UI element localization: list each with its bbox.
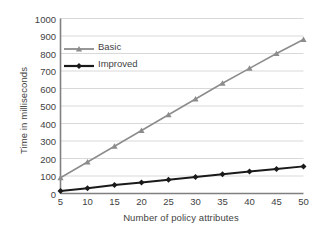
data-point [138,127,144,133]
data-point [165,112,171,118]
legend-label: Basic [98,41,121,52]
data-point [274,166,280,172]
data-point [112,182,118,188]
data-point [111,143,117,149]
data-point [139,179,145,185]
legend-swatch-triangle-icon [64,41,94,53]
line-chart: Time in milliseconds Number of policy at… [0,0,312,234]
data-point [84,159,90,165]
data-point [300,36,306,42]
legend-item-basic[interactable]: Basic [64,38,138,55]
data-point [301,163,307,169]
chart-legend: BasicImproved [64,38,138,72]
legend-swatch-diamond-icon [64,58,94,70]
data-point [57,175,63,181]
plot-area [0,0,312,234]
series-improved [58,163,307,194]
series-line [61,166,304,191]
data-point [247,168,253,174]
data-point [85,185,91,191]
legend-item-improved[interactable]: Improved [64,55,138,72]
legend-label: Improved [98,58,138,69]
data-point [166,177,172,183]
data-point [193,174,199,180]
legend-marker [76,63,82,69]
data-point [192,96,198,102]
